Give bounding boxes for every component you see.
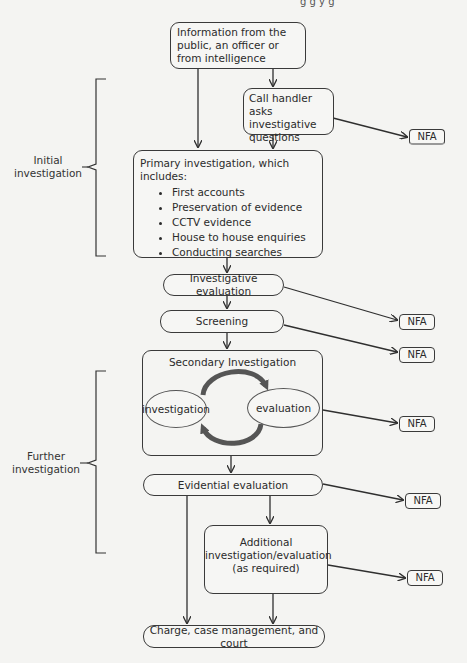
- list-item: Conducting searches: [172, 245, 316, 260]
- primary-investigation-box: Primary investigation, which includes: F…: [133, 150, 323, 258]
- list-item: House to house enquiries: [172, 230, 316, 245]
- nfa-box-screening: NFA: [399, 347, 435, 363]
- source-information-box: Information from the public, an officer …: [170, 22, 306, 69]
- additional-investigation-box: Additional investigation/evaluation (as …: [204, 525, 328, 594]
- list-item: CCTV evidence: [172, 215, 316, 230]
- nfa-box-secondary-investigation: NFA: [399, 416, 435, 432]
- additional-line-2: investigation/evaluation: [205, 549, 327, 562]
- screening-label: Screening: [196, 315, 248, 328]
- nfa-box-evidential-evaluation: NFA: [405, 493, 441, 509]
- secondary-investigation-title: Secondary Investigation: [143, 356, 322, 369]
- list-item: Preservation of evidence: [172, 200, 316, 215]
- primary-investigation-title: Primary investigation, which includes:: [140, 157, 316, 183]
- nfa-box-additional-investigation: NFA: [407, 570, 443, 586]
- charge-court-box: Charge, case management, and court: [143, 625, 325, 648]
- nfa-box-investigative-evaluation: NFA: [399, 314, 435, 330]
- source-information-label: Information from the public, an officer …: [177, 26, 286, 64]
- initial-investigation-label: Initial investigation: [14, 154, 82, 180]
- evidential-evaluation-label: Evidential evaluation: [178, 479, 289, 492]
- charge-court-label: Charge, case management, and court: [144, 624, 324, 650]
- further-investigation-line-1: Further: [12, 450, 80, 463]
- evidential-evaluation-box: Evidential evaluation: [143, 474, 323, 496]
- nfa-box-call-handler: NFA: [409, 129, 445, 145]
- investigation-ellipse: investigation: [145, 390, 207, 428]
- call-handler-box: Call handler asks investigative question…: [243, 88, 334, 135]
- initial-investigation-line-2: investigation: [14, 167, 82, 180]
- investigative-evaluation-box: Investigative evaluation: [163, 274, 284, 296]
- primary-investigation-list: First accounts Preservation of evidence …: [140, 185, 316, 260]
- investigation-ellipse-label: investigation: [142, 403, 210, 415]
- additional-line-3: (as required): [205, 562, 327, 575]
- additional-line-1: Additional: [205, 536, 327, 549]
- initial-investigation-line-1: Initial: [14, 154, 82, 167]
- further-investigation-line-2: investigation: [12, 463, 80, 476]
- investigative-evaluation-label: Investigative evaluation: [164, 272, 283, 298]
- evaluation-ellipse-label: evaluation: [256, 402, 311, 414]
- screening-box: Screening: [160, 310, 284, 333]
- list-item: First accounts: [172, 185, 316, 200]
- evaluation-ellipse: evaluation: [247, 388, 320, 428]
- further-investigation-label: Further investigation: [12, 450, 80, 476]
